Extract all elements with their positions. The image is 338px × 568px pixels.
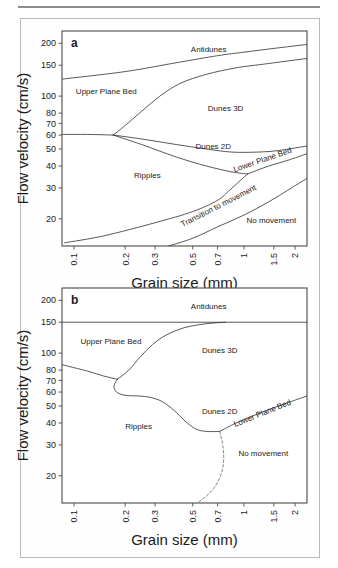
region-label-dunes-3d: Dunes 3D [202,346,238,355]
region-label-ripples: Ripples [134,171,161,180]
x-axis-title: Grain size (mm) [131,531,238,548]
y-axis-a: 20304050607080100150200 [41,38,62,224]
y-tick-label: 40 [46,418,56,428]
x-tick-label: 0.1 [69,253,79,266]
x-tick-label: 1.5 [269,253,279,266]
region-label-no-movement: No movement [238,449,289,458]
y-tick-label: 50 [46,144,56,154]
region-label-antidunes: Antidunes [191,45,227,54]
x-tick-label: 1.5 [269,510,279,523]
region-label-ripples: Ripples [125,422,152,431]
region-label-upper-plane-bed: Upper Plane Bed [80,337,141,346]
y-tick-label: 100 [41,348,56,358]
y-tick-label: 30 [46,440,56,450]
x-tick-label: 0.7 [213,253,223,266]
figure-canvas: 203040506070801001502000.10.20.30.50.711… [0,0,338,568]
y-axis-b: 20304050607080100150200 [41,295,62,481]
y-tick-label: 70 [46,119,56,129]
y-tick-label: 150 [41,317,56,327]
x-tick-label: 0.5 [188,510,198,523]
y-tick-label: 60 [46,387,56,397]
x-tick-label: 0.2 [121,253,131,266]
x-tick-label: 1 [239,253,249,258]
x-axis-a: 0.10.20.30.50.711.52 [69,246,300,266]
plot-frame-b [62,288,307,503]
y-tick-label: 50 [46,401,56,411]
figure-root: 203040506070801001502000.10.20.30.50.711… [0,0,338,568]
y-tick-label: 20 [46,214,56,224]
x-tick-label: 0.5 [188,253,198,266]
y-tick-label: 70 [46,376,56,386]
panel-letter-a: a [71,36,78,50]
region-label-antidunes: Antidunes [191,302,227,311]
y-axis-title: Flow velocity (cm/s) [14,330,31,462]
y-tick-label: 80 [46,365,56,375]
x-tick-label: 0.7 [213,510,223,523]
y-axis-title: Flow velocity (cm/s) [14,73,31,205]
x-tick-label: 1 [239,510,249,515]
x-tick-label: 0.2 [121,510,131,523]
region-label-upper-plane-bed: Upper Plane Bed [76,87,137,96]
panel-letter-b: b [71,293,78,307]
y-tick-label: 200 [41,38,56,48]
y-tick-label: 60 [46,130,56,140]
x-tick-label: 2 [290,253,300,258]
region-label-dunes-2d: Dunes 2D [202,407,238,416]
region-label-no-movement: No movement [246,216,297,225]
region-label-dunes-2d: Dunes 2D [195,142,231,151]
y-tick-label: 200 [41,295,56,305]
y-tick-label: 80 [46,108,56,118]
y-tick-label: 20 [46,471,56,481]
x-tick-label: 2 [290,510,300,515]
region-label-dunes-3d: Dunes 3D [208,104,244,113]
x-tick-label: 0.1 [69,510,79,523]
panel-a: 203040506070801001502000.10.20.30.50.711… [14,31,307,291]
x-tick-label: 0.3 [150,253,160,266]
y-tick-label: 150 [41,60,56,70]
x-tick-label: 0.3 [150,510,160,523]
y-tick-label: 100 [41,91,56,101]
y-tick-label: 30 [46,183,56,193]
y-tick-label: 40 [46,161,56,171]
panel-b: 203040506070801001502000.10.20.30.50.711… [14,288,307,548]
x-axis-b: 0.10.20.30.50.711.52 [69,503,300,523]
